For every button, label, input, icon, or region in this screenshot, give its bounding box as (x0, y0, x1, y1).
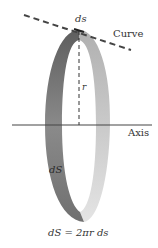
ring-band-back (79, 30, 110, 222)
dS-label: dS (49, 165, 62, 175)
curve-label: Curve (113, 29, 143, 39)
ds-label: ds (75, 14, 87, 24)
formula-label: dS = 2πr ds (48, 228, 108, 238)
radius-label: r (82, 83, 86, 92)
ring-band-front (45, 30, 84, 222)
axis-label: Axis (128, 128, 149, 138)
